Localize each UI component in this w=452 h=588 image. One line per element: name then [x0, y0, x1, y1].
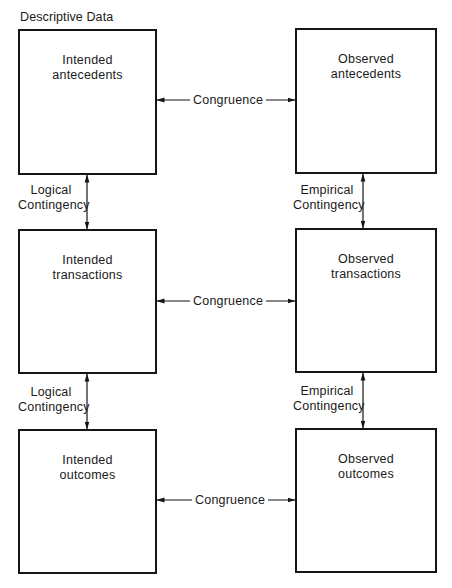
label-line: Logical — [18, 385, 84, 400]
congruence-label-row1: Congruence — [190, 93, 266, 107]
box-observed-transactions: Observed transactions — [295, 228, 437, 373]
box-label-line: Intended — [20, 53, 155, 68]
box-observed-outcomes: Observed outcomes — [295, 428, 437, 573]
label-line: Logical — [18, 183, 84, 198]
box-label-line: antecedents — [20, 68, 155, 83]
label-line: Contingency — [18, 400, 84, 415]
box-intended-transactions: Intended transactions — [18, 229, 157, 374]
box-label-line: antecedents — [297, 67, 435, 82]
box-label-line: transactions — [297, 267, 435, 282]
empirical-contingency-label-upper: Empirical Contingency — [293, 183, 361, 213]
box-label-line: Observed — [297, 252, 435, 267]
label-line: Contingency — [293, 399, 361, 414]
box-label-line: outcomes — [20, 468, 155, 483]
box-intended-outcomes: Intended outcomes — [18, 429, 157, 574]
congruence-label-row2: Congruence — [190, 294, 266, 308]
logical-contingency-label-upper: Logical Contingency — [18, 183, 84, 213]
box-label-line: outcomes — [297, 467, 435, 482]
diagram-title: Descriptive Data — [20, 10, 113, 24]
congruence-label-row3: Congruence — [192, 493, 268, 507]
box-label: Intended antecedents — [20, 53, 155, 83]
empirical-contingency-label-lower: Empirical Contingency — [293, 384, 361, 414]
box-label: Observed antecedents — [297, 52, 435, 82]
box-label: Intended transactions — [20, 253, 155, 283]
label-line: Contingency — [18, 198, 84, 213]
box-label-line: Observed — [297, 452, 435, 467]
label-line: Empirical — [293, 183, 361, 198]
label-line: Contingency — [293, 198, 361, 213]
box-label-line: Observed — [297, 52, 435, 67]
box-label-line: transactions — [20, 268, 155, 283]
box-label: Observed outcomes — [297, 452, 435, 482]
logical-contingency-label-lower: Logical Contingency — [18, 385, 84, 415]
label-line: Empirical — [293, 384, 361, 399]
box-label-line: Intended — [20, 253, 155, 268]
box-label: Observed transactions — [297, 252, 435, 282]
box-label-line: Intended — [20, 453, 155, 468]
box-observed-antecedents: Observed antecedents — [295, 28, 437, 174]
box-label: Intended outcomes — [20, 453, 155, 483]
box-intended-antecedents: Intended antecedents — [18, 29, 157, 175]
